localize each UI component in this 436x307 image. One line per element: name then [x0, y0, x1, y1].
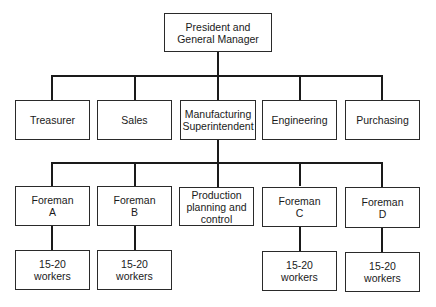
- connector-workers-c: [299, 226, 301, 251]
- node-label: workers: [34, 270, 71, 282]
- node-treasurer: Treasurer: [15, 100, 90, 140]
- node-label: 15-20: [39, 258, 66, 270]
- connector-workers-d: [381, 227, 383, 252]
- connector-manufacturing: [217, 75, 219, 100]
- node-workers-a: 15-20 workers: [15, 250, 90, 290]
- node-workers-c: 15-20 workers: [262, 251, 337, 291]
- node-president: President and General Manager: [164, 13, 272, 52]
- connector-foreman-b: [134, 162, 136, 186]
- node-label: Purchasing: [356, 114, 409, 126]
- node-label: workers: [281, 271, 318, 283]
- node-label: B: [131, 206, 138, 218]
- node-label: A: [49, 206, 56, 218]
- connector-workers-a: [51, 225, 53, 250]
- connector-root-down: [217, 51, 219, 77]
- connector-purchasing: [381, 75, 383, 100]
- connector-foreman-d: [381, 162, 383, 187]
- node-sales: Sales: [97, 100, 172, 140]
- node-foreman-b: Foreman B: [97, 186, 172, 226]
- node-foreman-d: Foreman D: [345, 187, 420, 228]
- connector-workers-b: [134, 225, 136, 250]
- connector-foreman-a: [51, 162, 53, 186]
- connector-sales: [134, 75, 136, 100]
- node-foreman-a: Foreman A: [15, 186, 90, 226]
- node-label: 15-20: [286, 259, 313, 271]
- node-label: Sales: [121, 114, 147, 126]
- node-label: Production: [191, 189, 241, 201]
- node-label: D: [379, 208, 387, 220]
- node-label: control: [201, 213, 233, 225]
- node-purchasing: Purchasing: [345, 100, 420, 140]
- node-manufacturing-superintendent: Manufacturing Superintendent: [180, 100, 256, 140]
- node-label: 15-20: [121, 258, 148, 270]
- connector-engineering: [299, 75, 301, 100]
- node-label: C: [296, 207, 304, 219]
- node-label: President and: [186, 21, 251, 33]
- node-label: Manufacturing: [185, 108, 252, 120]
- connector-treasurer: [51, 75, 53, 100]
- node-label: Foreman: [31, 194, 73, 206]
- connector-foreman-c: [299, 162, 301, 186]
- node-label: Superintendent: [182, 120, 253, 132]
- node-workers-d: 15-20 workers: [345, 252, 420, 292]
- node-label: Treasurer: [30, 114, 75, 126]
- node-label: Foreman: [113, 194, 155, 206]
- node-label: Foreman: [278, 195, 320, 207]
- node-label: workers: [364, 272, 401, 284]
- node-label: planning and: [186, 201, 246, 213]
- connector-manufacturing-down: [217, 139, 219, 164]
- node-label: Foreman: [361, 196, 403, 208]
- node-label: General Manager: [177, 33, 259, 45]
- node-workers-b: 15-20 workers: [97, 250, 172, 290]
- node-label: workers: [116, 270, 153, 282]
- connector-production: [217, 162, 219, 187]
- node-label: 15-20: [369, 260, 396, 272]
- node-engineering: Engineering: [262, 100, 337, 140]
- node-foreman-c: Foreman C: [262, 187, 337, 227]
- node-production-planning-control: Production planning and control: [179, 187, 254, 226]
- node-label: Engineering: [271, 114, 327, 126]
